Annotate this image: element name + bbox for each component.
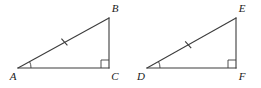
angle-arc-a <box>30 62 31 68</box>
vertex-label-e: E <box>238 2 246 14</box>
vertex-label-b: B <box>112 2 119 14</box>
geometry-figure: A B C D E F <box>0 0 261 88</box>
vertex-label-f: F <box>238 70 246 82</box>
right-angle-marker-f <box>228 60 236 68</box>
vertex-label-d: D <box>136 70 145 82</box>
triangle-def: D E F <box>136 2 246 82</box>
triangles-canvas: A B C D E F <box>0 0 261 88</box>
tick-mark-ab <box>61 39 67 46</box>
edge-de <box>147 18 236 68</box>
right-angle-marker-c <box>101 60 109 68</box>
tick-mark-de <box>185 41 191 48</box>
vertex-label-a: A <box>9 70 17 82</box>
angle-arc-d <box>159 62 161 69</box>
edge-ab <box>18 18 109 68</box>
vertex-label-c: C <box>111 70 119 82</box>
triangle-abc: A B C <box>9 2 120 82</box>
